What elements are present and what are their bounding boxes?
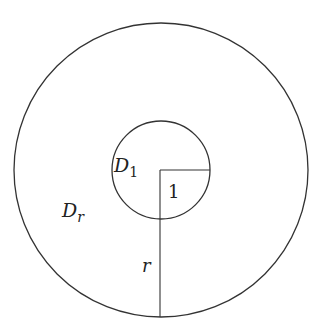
outer-region-label: Dr [61,199,85,225]
inner-radius-label: 1 [168,181,179,202]
inner-region-label: D1 [113,154,138,180]
annulus-diagram: D1 Dr 1 r [0,0,332,335]
outer-radius-label: r [142,255,152,276]
